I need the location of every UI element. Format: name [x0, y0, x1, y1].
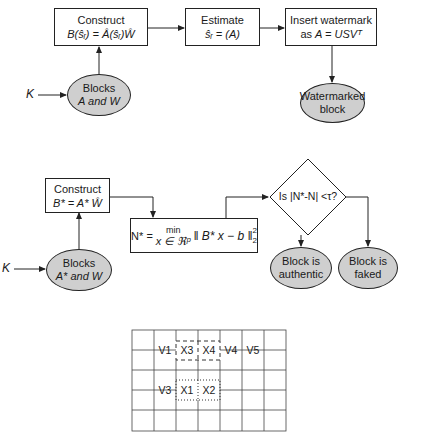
arrow-construct-to-norm: [110, 197, 153, 217]
insert-prefix: as: [300, 28, 315, 40]
construct-formula: B(ŝᵣ) = Â(ŝᵣ)Ŵ: [67, 27, 134, 41]
block-faked-ellipse: Block is faked: [338, 247, 398, 289]
construct-box: Construct B(ŝᵣ) = Â(ŝᵣ)Ŵ: [54, 8, 148, 46]
insert-watermark-box: Insert watermark as A = USVᵀ: [285, 8, 377, 46]
blocks-line2: A and W: [78, 95, 120, 108]
norm-sup: 2: [252, 226, 256, 236]
grid-cell-x4: X4: [198, 344, 220, 356]
arrow-norm-to-decision: [226, 197, 268, 218]
blocks-a-w-ellipse: Blocks A and W: [67, 74, 131, 116]
norm-sub: x ∈ ℜᵖ: [156, 236, 191, 247]
grid-cell-v4: V4: [220, 344, 242, 356]
grid-cell-x1: X1: [176, 384, 198, 396]
construct-title: Construct: [77, 13, 124, 27]
decision-label: Is |N*-N| <τ?: [270, 190, 346, 202]
watermarked-line2: block: [320, 103, 346, 116]
grid-cell-v1: V1: [154, 344, 176, 356]
grid-cell-v3: V3: [154, 384, 176, 396]
authentic-line2: authentic: [279, 268, 324, 281]
blocks-line1: Blocks: [83, 82, 115, 95]
watermarked-block-ellipse: Watermarked block: [300, 83, 365, 123]
construct-b-formula: B* = A* Ŵ: [53, 196, 102, 210]
estimate-box: Estimate ŝᵣ = (A): [185, 8, 260, 46]
arrow-decision-to-faked: [346, 197, 368, 246]
grid-cell-x2: X2: [198, 384, 220, 396]
norm-box: N* = min x ∈ ℜᵖ ‖ B* x − b ‖ 2 2: [130, 218, 258, 253]
faked-line2: faked: [355, 268, 382, 281]
key-label: K: [26, 87, 34, 101]
norm-lhs: N* =: [131, 229, 153, 243]
blocks-b-line1: Blocks: [63, 257, 95, 270]
faked-line1: Block is: [349, 255, 387, 268]
insert-title: Insert watermark: [290, 13, 372, 27]
insert-formula: A = USVᵀ: [315, 28, 361, 40]
construct-b-title: Construct: [54, 182, 101, 196]
grid-cell-v5: V5: [242, 344, 264, 356]
estimate-formula: ŝᵣ = (A): [205, 27, 240, 41]
grid-cell-x3: X3: [176, 344, 198, 356]
authentic-line1: Block is: [282, 255, 320, 268]
watermarked-line1: Watermarked: [300, 90, 366, 103]
norm-subn: 2: [252, 236, 256, 246]
block-authentic-ellipse: Block is authentic: [270, 247, 332, 289]
norm-expr: ‖ B* x − b ‖: [193, 229, 252, 243]
key-label-b: K: [2, 261, 10, 275]
norm-min: min: [166, 225, 181, 236]
estimate-title: Estimate: [201, 13, 244, 27]
blocks-b-line2: A* and W: [56, 270, 102, 283]
blocks-a-star-w-ellipse: Blocks A* and W: [46, 249, 112, 291]
construct-b-star-box: Construct B* = A* Ŵ: [45, 178, 110, 213]
